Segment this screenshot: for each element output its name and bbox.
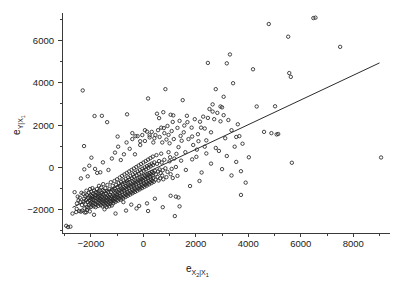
y-axis-title: eY|X1 bbox=[11, 115, 26, 135]
x-tick-labels: −200002000400060008000 bbox=[78, 238, 364, 249]
data-point bbox=[227, 118, 230, 121]
data-point bbox=[247, 156, 250, 159]
y-tick-label: 2000 bbox=[33, 120, 54, 131]
data-point bbox=[239, 170, 242, 173]
data-point bbox=[170, 129, 173, 132]
data-point bbox=[211, 110, 214, 113]
data-point bbox=[125, 113, 128, 116]
data-point bbox=[161, 205, 164, 208]
data-point bbox=[165, 175, 168, 178]
data-point bbox=[196, 133, 199, 136]
data-point bbox=[82, 144, 85, 147]
y-tick-label: 4000 bbox=[33, 77, 54, 88]
data-point bbox=[182, 131, 185, 134]
svg-text:eX2|X1: eX2|X1 bbox=[186, 263, 209, 278]
data-point bbox=[267, 22, 270, 25]
data-point bbox=[166, 124, 169, 127]
data-point bbox=[153, 137, 156, 140]
data-point bbox=[286, 35, 289, 38]
data-point bbox=[190, 158, 193, 161]
data-point bbox=[224, 137, 227, 140]
data-point bbox=[100, 114, 103, 117]
data-point bbox=[203, 127, 206, 130]
data-point bbox=[236, 123, 239, 126]
data-point bbox=[171, 120, 174, 123]
y-tick-labels: −20000200040006000 bbox=[27, 35, 54, 215]
data-point bbox=[158, 135, 161, 138]
data-point bbox=[212, 117, 215, 120]
data-point bbox=[179, 134, 182, 137]
data-point bbox=[209, 131, 212, 134]
data-point bbox=[195, 155, 198, 158]
data-point bbox=[170, 167, 173, 170]
caption-sliver bbox=[18, 285, 378, 290]
data-point bbox=[225, 62, 228, 65]
data-point bbox=[184, 168, 187, 171]
data-point bbox=[167, 133, 170, 136]
data-point bbox=[199, 126, 202, 129]
data-point bbox=[288, 71, 291, 74]
svg-text:eY|X1: eY|X1 bbox=[11, 115, 26, 135]
data-point bbox=[187, 137, 190, 140]
data-point bbox=[208, 107, 211, 110]
x-tick-label: 6000 bbox=[290, 238, 311, 249]
data-point bbox=[69, 225, 72, 228]
data-point bbox=[198, 120, 201, 123]
data-point bbox=[105, 120, 108, 123]
data-point bbox=[155, 153, 158, 156]
data-point bbox=[169, 172, 172, 175]
y-tick-label: −2000 bbox=[27, 204, 54, 215]
data-point bbox=[131, 137, 134, 140]
data-point bbox=[135, 207, 138, 210]
data-point bbox=[92, 213, 95, 216]
data-point bbox=[128, 147, 131, 150]
data-point bbox=[205, 152, 208, 155]
x-tick-label: 4000 bbox=[238, 238, 259, 249]
data-point bbox=[146, 209, 149, 212]
data-point bbox=[181, 98, 184, 101]
data-point bbox=[122, 153, 125, 156]
data-point bbox=[102, 182, 105, 185]
data-point bbox=[106, 183, 109, 186]
data-point bbox=[159, 152, 162, 155]
data-point bbox=[116, 145, 119, 148]
data-point bbox=[168, 156, 171, 159]
data-point bbox=[222, 113, 225, 116]
data-point bbox=[169, 194, 172, 197]
data-point bbox=[206, 61, 209, 64]
data-point bbox=[183, 124, 186, 127]
data-point bbox=[110, 157, 113, 160]
data-point bbox=[205, 139, 208, 142]
data-point bbox=[338, 45, 341, 48]
data-point bbox=[167, 150, 170, 153]
data-point bbox=[119, 158, 122, 161]
data-point bbox=[178, 205, 181, 208]
data-point bbox=[93, 167, 96, 170]
data-point bbox=[73, 190, 76, 193]
data-point bbox=[222, 95, 225, 98]
data-point bbox=[130, 203, 133, 206]
data-point bbox=[214, 146, 217, 149]
data-point bbox=[122, 200, 125, 203]
data-point bbox=[168, 142, 171, 145]
plot-canvas: −200002000400060008000 −2000020004000600… bbox=[0, 0, 395, 290]
data-point bbox=[190, 135, 193, 138]
data-point bbox=[209, 162, 212, 165]
data-point bbox=[125, 141, 128, 144]
data-point bbox=[219, 120, 222, 123]
data-point bbox=[206, 116, 209, 119]
data-point bbox=[131, 131, 134, 134]
x-axis-title: eX2|X1 bbox=[186, 263, 209, 278]
data-point bbox=[228, 53, 231, 56]
data-point bbox=[141, 133, 144, 136]
data-point bbox=[198, 179, 201, 182]
data-point bbox=[200, 171, 203, 174]
data-point bbox=[230, 174, 233, 177]
data-point bbox=[314, 16, 317, 19]
data-point bbox=[162, 111, 165, 114]
data-point bbox=[230, 128, 233, 131]
data-point bbox=[90, 156, 93, 159]
data-point bbox=[139, 139, 142, 142]
data-point bbox=[197, 139, 200, 142]
data-point bbox=[93, 114, 96, 117]
